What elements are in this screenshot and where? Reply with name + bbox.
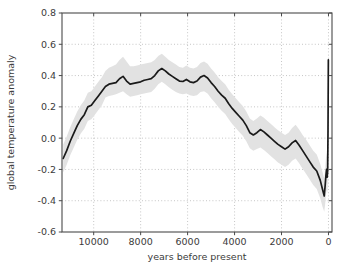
x-tick-label: 10000 — [79, 236, 109, 247]
x-tick-label: 6000 — [176, 236, 200, 247]
x-tick-label: 0 — [325, 236, 331, 247]
x-tick-label: 8000 — [129, 236, 153, 247]
plot-area-background — [62, 13, 332, 232]
chart-canvas: 1000080006000400020000 -0.6-0.4-0.20.00.… — [0, 0, 348, 270]
y-tick-label: 0.6 — [41, 39, 56, 50]
y-tick-label: 0.4 — [41, 70, 56, 81]
x-axis-title: years before present — [148, 251, 247, 262]
y-tick-label: 0.2 — [41, 101, 56, 112]
y-tick-label: -0.4 — [37, 195, 56, 206]
y-axis-title: global temperature anomaly — [5, 54, 16, 190]
x-tick-label: 2000 — [269, 236, 293, 247]
y-tick-label: 0.8 — [41, 7, 56, 18]
y-tick-label: -0.6 — [37, 226, 56, 237]
y-tick-label: 0.0 — [41, 133, 56, 144]
y-tick-label: -0.2 — [37, 164, 56, 175]
x-tick-label: 4000 — [222, 236, 246, 247]
chart-figure: 1000080006000400020000 -0.6-0.4-0.20.00.… — [0, 0, 348, 270]
